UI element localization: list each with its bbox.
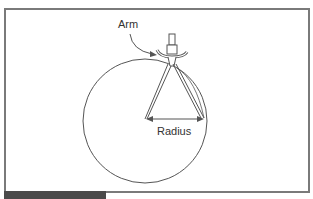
radius-label: Radius bbox=[157, 125, 192, 137]
compass-head bbox=[167, 45, 177, 54]
drawn-circle bbox=[83, 59, 207, 183]
arm-arrowhead-icon bbox=[150, 51, 157, 57]
compass-hinge bbox=[168, 57, 176, 66]
radius-arrowhead-left-icon bbox=[146, 116, 153, 122]
compass-handle bbox=[169, 34, 175, 45]
arm-label: Arm bbox=[118, 18, 138, 30]
compass-left-leg bbox=[145, 64, 171, 119]
compass-diagram: Arm Radius bbox=[0, 0, 313, 199]
arm-pointer-arrow bbox=[130, 34, 152, 54]
